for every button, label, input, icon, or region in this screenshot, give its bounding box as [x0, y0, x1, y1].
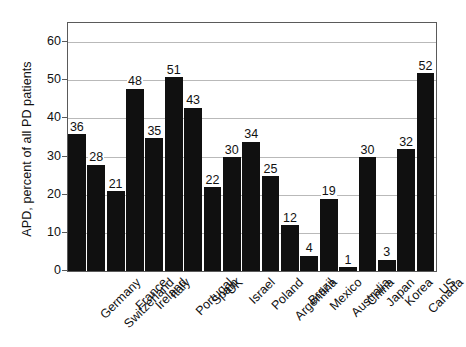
bar-group: 28 [87, 23, 105, 271]
bar-group: 25 [262, 23, 280, 271]
y-axis-tick-label: 30 [30, 150, 61, 163]
bar-value-label: 3 [382, 246, 391, 259]
bar [165, 77, 183, 271]
bar-group: 21 [107, 23, 125, 271]
bar [320, 199, 338, 271]
bar [339, 267, 357, 271]
bar-value-label: 48 [127, 75, 143, 88]
bar-group: 52 [417, 23, 435, 271]
bar-group: 12 [281, 23, 299, 271]
bar-group: 36 [68, 23, 86, 271]
bar-group: 30 [223, 23, 241, 271]
bar-group: 51 [165, 23, 183, 271]
bar-value-label: 28 [88, 151, 104, 164]
y-axis-tick-label: 40 [30, 111, 61, 124]
bar [223, 157, 241, 271]
bar [204, 187, 222, 271]
bar [378, 260, 396, 271]
bar-value-label: 25 [263, 163, 279, 176]
bar-value-label: 30 [224, 144, 240, 157]
bar-value-label: 1 [344, 254, 353, 267]
bar [126, 89, 144, 271]
y-axis-tick-label: 0 [30, 264, 61, 277]
y-axis-tick-label: 10 [30, 226, 61, 239]
y-axis-tick-label: 20 [30, 188, 61, 201]
bar-value-label: 35 [146, 125, 162, 138]
bar [184, 108, 202, 271]
y-axis-tick-label: 50 [30, 73, 61, 86]
bar-group: 22 [204, 23, 222, 271]
bar-group: 43 [184, 23, 202, 271]
bar-value-label: 36 [69, 121, 85, 134]
bar-value-label: 51 [166, 64, 182, 77]
bar-group: 30 [359, 23, 377, 271]
bar [107, 191, 125, 271]
bar-group: 1 [339, 23, 357, 271]
bar-value-label: 12 [282, 212, 298, 225]
bar [300, 256, 318, 271]
bar-group: 48 [126, 23, 144, 271]
bar [417, 73, 435, 271]
x-axis-category-labels: GermanySwitzerlandFranceIrelandItalyPort… [68, 274, 436, 347]
bar-value-label: 34 [243, 128, 259, 141]
bar-value-label: 52 [418, 60, 434, 73]
bar-group: 34 [242, 23, 260, 271]
y-axis-tick-label: 60 [30, 35, 61, 48]
bar [242, 142, 260, 271]
bar-value-label: 19 [321, 185, 337, 198]
bar-group: 32 [397, 23, 415, 271]
bar [87, 165, 105, 271]
bar-group: 35 [145, 23, 163, 271]
bar-value-label: 32 [398, 136, 414, 149]
bar-value-label: 22 [205, 174, 221, 187]
bars-container: 36282148355143223034251241913033252 [68, 23, 436, 271]
bar-value-label: 21 [108, 178, 124, 191]
bar [68, 134, 86, 271]
bar-value-label: 4 [305, 242, 314, 255]
bar [262, 176, 280, 271]
bar-group: 19 [320, 23, 338, 271]
bar [145, 138, 163, 271]
bar [359, 157, 377, 271]
bar-group: 4 [300, 23, 318, 271]
bar-value-label: 30 [359, 144, 375, 157]
bar [281, 225, 299, 271]
bar [397, 149, 415, 271]
bar-value-label: 43 [185, 94, 201, 107]
bar-group: 3 [378, 23, 396, 271]
